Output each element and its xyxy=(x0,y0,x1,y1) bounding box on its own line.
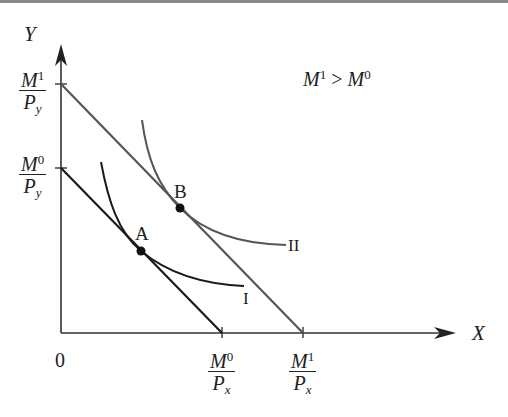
denominator: P xyxy=(294,372,306,394)
indifference-curve-I xyxy=(101,162,244,286)
curve-II-label: II xyxy=(288,237,299,254)
indifference-curve-II xyxy=(142,120,286,245)
origin-label: 0 xyxy=(55,350,65,370)
curve-I-label: I xyxy=(243,290,249,307)
superscript: 1 xyxy=(308,349,315,364)
subscript: y xyxy=(36,185,42,200)
superscript: 0 xyxy=(38,152,45,167)
y-axis-label: Y xyxy=(24,24,36,45)
condition-right-sup: 0 xyxy=(364,67,371,82)
numerator: M xyxy=(21,153,38,175)
point-B xyxy=(176,204,185,213)
condition-right: M xyxy=(347,68,364,90)
y-intercept-m0-label: M0 Py xyxy=(19,150,46,204)
condition-operator: > xyxy=(326,68,347,90)
superscript: 0 xyxy=(227,349,234,364)
numerator: M xyxy=(210,350,227,372)
point-B-label: B xyxy=(174,182,187,201)
point-A-label: A xyxy=(135,224,149,243)
diagram-canvas xyxy=(0,0,508,417)
denominator: P xyxy=(213,372,225,394)
point-A xyxy=(137,247,146,256)
subscript: y xyxy=(36,101,42,116)
x-axis-label: X xyxy=(472,323,485,344)
income-condition-label: M1 > M0 xyxy=(303,68,371,89)
denominator: P xyxy=(24,175,36,197)
subscript: x xyxy=(225,382,231,397)
x-intercept-m1-label: M1 Px xyxy=(289,347,316,401)
numerator: M xyxy=(291,350,308,372)
numerator: M xyxy=(21,69,38,91)
condition-left: M xyxy=(303,68,320,90)
x-intercept-m0-label: M0 Px xyxy=(208,347,235,401)
subscript: x xyxy=(306,382,312,397)
superscript: 1 xyxy=(38,68,45,83)
y-intercept-m1-label: M1 Py xyxy=(19,66,46,120)
denominator: P xyxy=(24,91,36,113)
